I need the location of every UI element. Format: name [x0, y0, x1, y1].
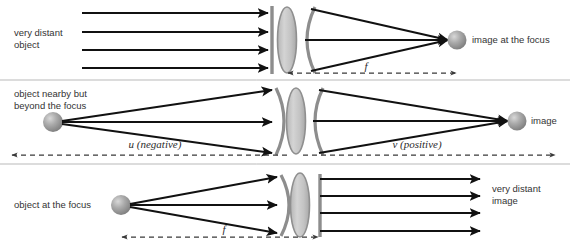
row3-image-label-line2: image: [492, 195, 518, 206]
row2-object-label-line2: beyond the focus: [14, 100, 87, 111]
image-sphere: [448, 31, 467, 50]
object-sphere: [43, 112, 63, 132]
row3-object-label: object at the focus: [14, 199, 91, 210]
object-sphere: [111, 195, 131, 215]
diverging-rays-incoming: [130, 177, 277, 233]
row3-image-label-line1: very distant: [492, 183, 541, 194]
outgoing-parallel-rays: [320, 179, 480, 231]
convex-lens: [278, 7, 297, 73]
lens-ray-diagram: very distant object image at the focus f: [0, 0, 570, 248]
row2-image-label: image: [531, 115, 557, 126]
row1-object-label-line2: object: [14, 39, 40, 50]
diverging-wavefront: [281, 175, 289, 236]
row-object-at-focus: object at the focus very distant image f: [14, 173, 541, 237]
diagram-canvas: very distant object image at the focus f: [0, 0, 570, 248]
image-sphere: [508, 112, 527, 131]
row2-object-distance-label: u (negative): [129, 138, 182, 151]
converging-rays: [305, 9, 448, 71]
row-very-distant-object: very distant object image at the focus f: [14, 6, 550, 74]
row2-object-label-line1: object nearby but: [14, 88, 87, 99]
row2-image-distance-label: v (positive): [392, 138, 442, 151]
convex-lens: [287, 88, 306, 154]
row1-object-label-line1: very distant: [14, 27, 63, 38]
incoming-parallel-rays: [82, 13, 268, 68]
row1-focal-length-label: f: [364, 60, 369, 72]
row1-image-label: image at the focus: [472, 34, 550, 45]
diverging-wavefront: [276, 88, 284, 155]
row-object-beyond-focus: object nearby but beyond the focus image…: [12, 88, 557, 155]
convex-lens: [291, 173, 310, 237]
